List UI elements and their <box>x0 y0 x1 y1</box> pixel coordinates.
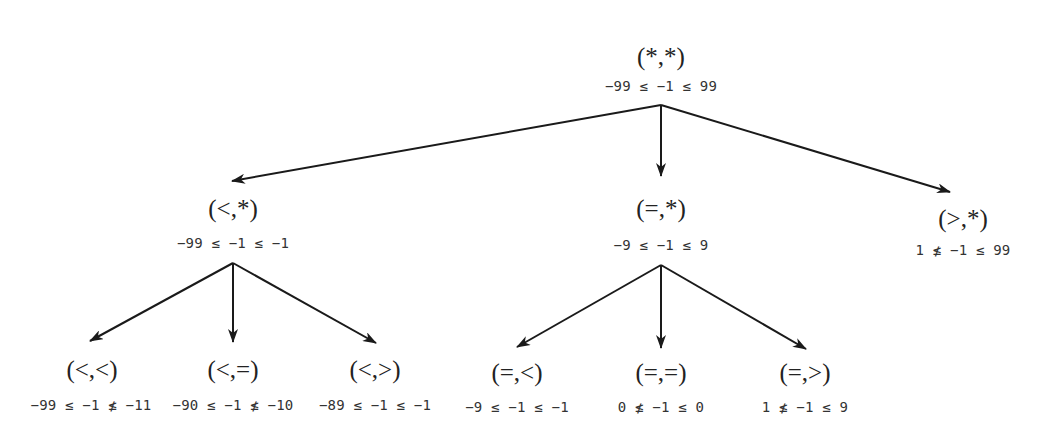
edge-arrow-root-to-lt-star <box>232 105 661 181</box>
node-constraint-eq-eq: 0 ≰ −1 ≤ 0 <box>618 400 704 414</box>
node-label-eq-lt: (=,<) <box>491 360 542 385</box>
node-constraint-root: −99 ≤ −1 ≤ 99 <box>605 79 717 93</box>
node-label-root: (*,*) <box>637 44 685 69</box>
node-constraint-eq-gt: 1 ≰ −1 ≤ 9 <box>762 400 848 414</box>
node-label-lt-lt: (<,<) <box>66 357 117 382</box>
node-constraint-lt-star: −99 ≤ −1 ≤ −1 <box>177 236 289 250</box>
node-constraint-eq-star: −9 ≤ −1 ≤ 9 <box>614 238 709 252</box>
node-label-eq-eq: (=,=) <box>635 360 686 385</box>
node-label-gt-star: (>,*) <box>938 206 988 231</box>
node-constraint-lt-eq: −90 ≤ −1 ≰ −10 <box>173 398 294 412</box>
node-constraint-eq-lt: −9 ≤ −1 ≤ −1 <box>465 400 569 414</box>
node-label-eq-star: (=,*) <box>636 196 686 221</box>
edge-arrow-lt-star-to-lt-gt <box>233 263 376 343</box>
node-label-lt-star: (<,*) <box>208 196 258 221</box>
node-label-lt-eq: (<,=) <box>207 357 258 382</box>
node-constraint-lt-lt: −99 ≤ −1 ≰ −11 <box>31 398 152 412</box>
edge-arrow-lt-star-to-lt-lt <box>90 263 233 341</box>
node-label-eq-gt: (=,>) <box>779 360 830 385</box>
edge-arrow-root-to-gt-star <box>661 105 950 192</box>
edge-arrow-eq-star-to-eq-gt <box>661 265 806 349</box>
node-constraint-lt-gt: −89 ≤ −1 ≤ −1 <box>319 398 431 412</box>
node-label-lt-gt: (<,>) <box>349 357 400 382</box>
edge-arrow-eq-star-to-eq-lt <box>517 265 661 347</box>
node-constraint-gt-star: 1 ≰ −1 ≤ 99 <box>916 243 1011 257</box>
